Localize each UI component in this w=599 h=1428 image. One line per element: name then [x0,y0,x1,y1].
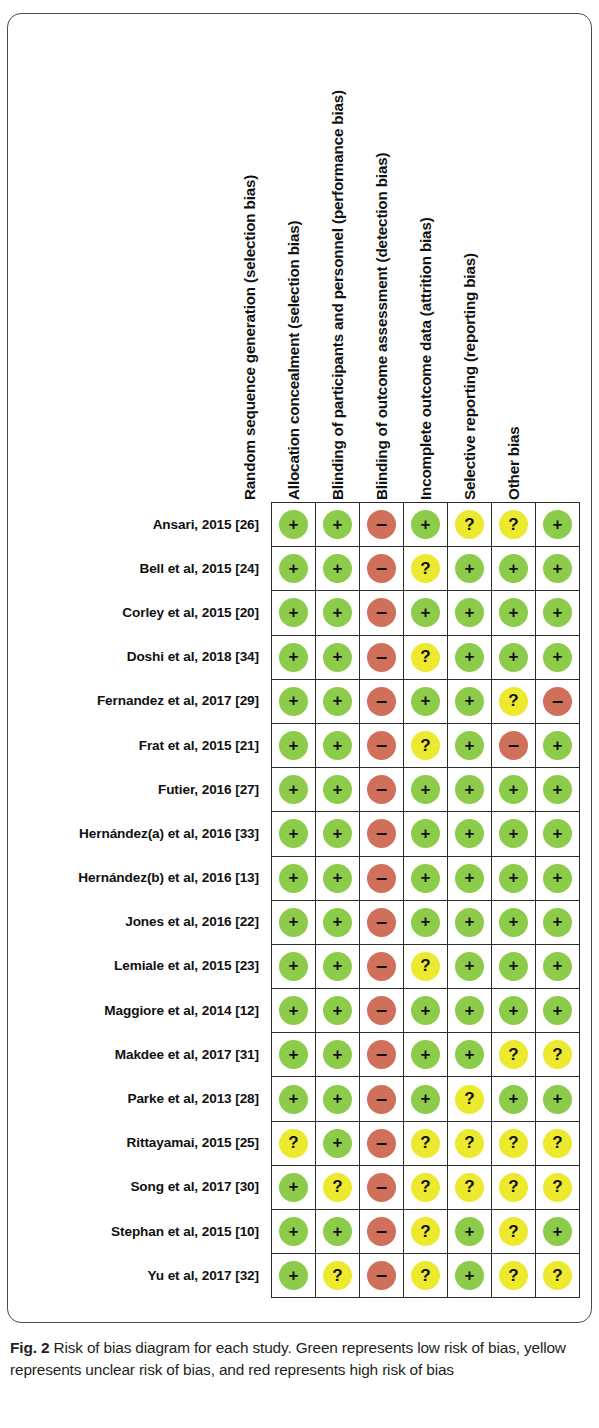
judgement-cell: + [448,724,492,768]
study-label: Makdee et al, 2017 [31] [0,1032,266,1076]
judgement-glyph: ? [332,1267,342,1284]
study-label: Yu et al, 2017 [32] [0,1253,266,1297]
risk-unclear-icon: ? [455,1173,484,1202]
judgement-cell: ? [404,945,448,989]
judgement-glyph: – [376,955,387,975]
study-label: Doshi et al, 2018 [34] [0,635,266,679]
risk-low-icon: + [499,952,528,981]
risk-low-icon: + [323,554,352,583]
judgement-glyph: – [376,1264,387,1284]
judgement-cell: + [536,591,580,635]
risk-low-icon: + [279,908,308,937]
study-label: Maggiore et al, 2014 [12] [0,988,266,1032]
judgement-glyph: ? [420,957,430,974]
table-row: ++–++++ [272,901,580,945]
judgement-glyph: ? [420,1267,430,1284]
study-label: Frat et al, 2015 [21] [0,723,266,767]
judgement-glyph: + [333,1090,343,1107]
judgement-cell: + [448,901,492,945]
risk-low-icon: + [455,908,484,937]
judgement-cell: – [492,724,536,768]
study-label: Jones et al, 2016 [22] [0,900,266,944]
judgement-cell: – [360,503,404,547]
judgement-glyph: – [376,1176,387,1196]
judgement-cell: ? [448,1077,492,1121]
risk-low-icon: + [499,775,528,804]
judgement-glyph: ? [420,1178,430,1195]
risk-low-icon: + [499,908,528,937]
judgement-cell: ? [536,1254,580,1298]
risk-low-icon: + [455,1040,484,1069]
judgement-glyph: + [465,560,475,577]
judgement-cell: ? [448,503,492,547]
judgement-cell: – [360,591,404,635]
judgement-cell: + [272,1166,316,1210]
judgement-cell: – [360,1210,404,1254]
judgement-glyph: + [465,781,475,798]
judgement-cell: + [536,1210,580,1254]
judgement-glyph: + [553,604,563,621]
judgement-glyph: + [553,957,563,974]
judgement-glyph: + [553,648,563,665]
risk-low-icon: + [455,864,484,893]
judgement-glyph: ? [508,1178,518,1195]
judgement-cell: ? [404,1166,448,1210]
judgement-glyph: ? [552,1134,562,1151]
judgement-cell: + [536,945,580,989]
judgement-cell: + [272,680,316,724]
risk-low-icon: + [323,643,352,672]
risk-low-icon: + [323,1129,352,1158]
risk-low-icon: + [279,687,308,716]
risk-high-icon: – [367,819,396,848]
risk-low-icon: + [499,598,528,627]
study-label: Futier, 2016 [27] [0,767,266,811]
risk-low-icon: + [411,687,440,716]
judgement-cell: ? [272,1122,316,1166]
table-row: ++–++++ [272,989,580,1033]
risk-unclear-icon: ? [411,731,440,760]
judgement-glyph: + [509,957,519,974]
judgement-cell: + [404,1033,448,1077]
risk-of-bias-matrix: ++–+??+++–?+++++–++++++–?+++++–++?–++–?+… [271,502,580,1298]
judgement-cell: + [316,945,360,989]
risk-unclear-icon: ? [455,510,484,539]
judgement-cell: + [448,680,492,724]
risk-low-icon: + [411,819,440,848]
judgement-glyph: + [333,692,343,709]
judgement-cell: + [316,857,360,901]
judgement-glyph: + [553,516,563,533]
judgement-cell: + [404,901,448,945]
risk-low-icon: + [323,864,352,893]
judgement-cell: + [316,680,360,724]
risk-low-icon: + [323,731,352,760]
column-header-5: Incomplete outcome data (attrition bias) [404,22,448,502]
risk-unclear-icon: ? [323,1261,352,1290]
judgement-glyph: + [553,781,563,798]
judgement-glyph: + [465,737,475,754]
judgement-glyph: + [421,869,431,886]
judgement-glyph: + [553,913,563,930]
study-label: Ansari, 2015 [26] [0,502,266,546]
judgement-cell: + [492,945,536,989]
risk-low-icon: + [279,1217,308,1246]
risk-unclear-icon: ? [411,554,440,583]
risk-low-icon: + [499,864,528,893]
risk-high-icon: – [543,687,572,716]
judgement-cell: + [272,901,316,945]
risk-low-icon: + [543,643,572,672]
risk-unclear-icon: ? [411,1261,440,1290]
judgement-cell: + [316,724,360,768]
study-label: Parke et al, 2013 [28] [0,1076,266,1120]
judgement-glyph: ? [288,1134,298,1151]
judgement-glyph: + [289,516,299,533]
judgement-glyph: + [333,781,343,798]
judgement-glyph: + [465,913,475,930]
column-header-label: Random sequence generation (selection bi… [228,175,272,502]
judgement-glyph: ? [420,737,430,754]
judgement-glyph: ? [420,1134,430,1151]
judgement-glyph: + [289,1002,299,1019]
risk-high-icon: – [367,510,396,539]
judgement-cell: + [492,989,536,1033]
judgement-cell: ? [404,1254,448,1298]
judgement-cell: + [272,857,316,901]
